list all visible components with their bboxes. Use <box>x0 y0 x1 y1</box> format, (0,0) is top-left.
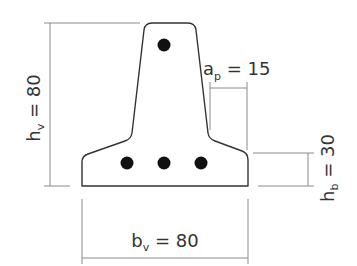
width-label: bv = 80 <box>131 230 198 254</box>
rebar-top <box>158 39 171 52</box>
cross-section-diagram: hv = 80 bv = 80 ap = 15 hb = 30 <box>0 0 357 266</box>
flange-height-label: hb = 30 <box>317 134 341 202</box>
flange-height-dimension <box>253 153 314 186</box>
projection-dimension <box>210 82 247 150</box>
rebar-bottom-left <box>121 157 134 170</box>
rebar-bottom-center <box>158 157 171 170</box>
projection-label: ap = 15 <box>203 58 270 83</box>
height-label: hv = 80 <box>23 74 47 141</box>
rebar-bottom-right <box>195 157 208 170</box>
